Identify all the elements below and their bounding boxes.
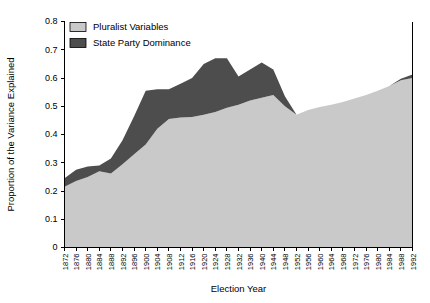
x-tick-label-21: 1956 — [304, 254, 313, 271]
x-tick-label-28: 1984 — [385, 254, 394, 271]
x-axis-title: Election Year — [211, 283, 266, 294]
x-tick-label-23: 1964 — [327, 254, 336, 271]
x-tick-label-27: 1980 — [374, 254, 383, 271]
y-tick-label-1: 0.1 — [45, 214, 58, 224]
y-tick-label-6: 0.6 — [45, 73, 58, 83]
x-tick-label-24: 1968 — [339, 254, 348, 271]
x-tick-label-1: 1876 — [72, 254, 81, 271]
legend-label-1: State Party Dominance — [93, 37, 191, 48]
x-tick-label-29: 1988 — [397, 254, 406, 271]
legend-swatch-1 — [70, 39, 86, 48]
x-tick-label-14: 1928 — [223, 254, 232, 271]
x-tick-label-25: 1972 — [351, 254, 360, 271]
x-tick-label-15: 1932 — [235, 254, 244, 271]
x-tick-label-22: 1960 — [316, 254, 325, 271]
x-tick-label-20: 1952 — [293, 254, 302, 271]
x-tick-label-11: 1916 — [188, 254, 197, 271]
x-tick-label-10: 1912 — [177, 254, 186, 271]
x-tick-label-7: 1900 — [142, 254, 151, 271]
y-tick-label-5: 0.5 — [45, 101, 58, 111]
stacked-area-chart: 00.10.20.30.40.50.60.70.8Proportion of t… — [0, 0, 430, 303]
y-tick-label-0: 0 — [52, 242, 57, 252]
x-tick-label-0: 1872 — [61, 254, 70, 271]
x-tick-label-13: 1924 — [211, 254, 220, 271]
y-tick-label-8: 0.8 — [45, 16, 58, 26]
x-tick-label-3: 1884 — [95, 254, 104, 271]
x-tick-label-8: 1904 — [153, 254, 162, 271]
legend-swatch-0 — [70, 23, 86, 32]
legend-label-0: Pluralist Variables — [93, 21, 169, 32]
y-tick-label-2: 0.2 — [45, 186, 58, 196]
x-tick-label-19: 1948 — [281, 254, 290, 271]
x-tick-label-5: 1892 — [119, 254, 128, 271]
y-axis-title: Proportion of the Variance Explained — [5, 57, 16, 211]
x-tick-label-9: 1908 — [165, 254, 174, 271]
x-tick-label-18: 1944 — [269, 254, 278, 271]
y-tick-label-4: 0.4 — [45, 129, 58, 139]
x-tick-label-17: 1940 — [258, 254, 267, 271]
x-tick-label-30: 1992 — [409, 254, 418, 271]
x-tick-label-4: 1888 — [107, 254, 116, 271]
x-tick-label-12: 1920 — [200, 254, 209, 271]
chart-figure: 00.10.20.30.40.50.60.70.8Proportion of t… — [0, 0, 430, 303]
x-tick-label-6: 1896 — [130, 254, 139, 271]
y-tick-label-3: 0.3 — [45, 158, 58, 168]
x-tick-label-16: 1936 — [246, 254, 255, 271]
x-tick-label-2: 1880 — [84, 254, 93, 271]
y-tick-label-7: 0.7 — [45, 45, 58, 55]
x-tick-label-26: 1976 — [362, 254, 371, 271]
